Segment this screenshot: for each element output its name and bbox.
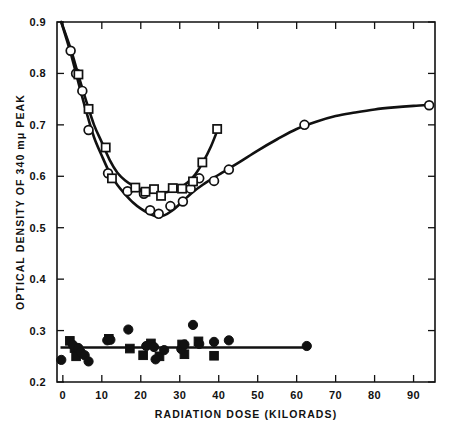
y-axis-title: OPTICAL DENSITY OF 340 mμ PEAK: [14, 94, 26, 310]
data-point-open-square: [189, 177, 197, 185]
data-point-filled-circle: [57, 355, 66, 364]
data-point-filled-circle: [224, 336, 233, 345]
data-point-open-circle: [84, 126, 93, 135]
y-tick-label: 0.7: [30, 119, 47, 131]
data-point-filled-circle: [180, 340, 189, 349]
y-tick-label: 0.8: [30, 67, 47, 79]
data-point-filled-circle: [124, 325, 133, 334]
x-tick-label: 40: [212, 389, 225, 401]
data-point-open-circle: [224, 165, 233, 174]
data-point-open-circle: [66, 46, 75, 55]
data-point-open-circle: [425, 101, 434, 110]
data-point-open-circle: [78, 87, 87, 96]
y-tick-label: 0.2: [30, 376, 47, 388]
x-tick-label: 20: [134, 389, 147, 401]
data-point-open-square: [169, 184, 177, 192]
data-point-open-square: [84, 105, 92, 113]
data-point-open-square: [74, 70, 82, 78]
data-point-filled-circle: [151, 355, 160, 364]
data-point-open-circle: [178, 197, 187, 206]
data-point-filled-circle: [149, 342, 158, 351]
chart-plot-area: 0102030405060708090 0.20.30.40.50.60.70.…: [0, 0, 455, 432]
data-point-filled-circle: [160, 346, 169, 355]
data-point-filled-circle: [84, 357, 93, 366]
y-tick-label: 0.6: [30, 170, 47, 182]
data-point-open-square: [157, 192, 165, 200]
data-point-open-square: [141, 188, 149, 196]
x-tick-label: 30: [173, 389, 186, 401]
y-tick-label: 0.4: [30, 273, 47, 285]
x-tick-label: 50: [251, 389, 264, 401]
x-tick-label: 80: [368, 389, 381, 401]
x-tick-label: 70: [329, 389, 342, 401]
data-point-open-square: [102, 143, 110, 151]
data-point-filled-circle: [188, 320, 197, 329]
data-point-open-circle: [146, 206, 155, 215]
data-point-open-square: [131, 184, 139, 192]
data-point-open-square: [178, 185, 186, 193]
data-point-filled-circle: [195, 339, 204, 348]
data-point-open-square: [198, 158, 206, 166]
data-point-open-square: [108, 174, 116, 182]
data-point-filled-square: [210, 351, 219, 360]
x-tick-label: 60: [290, 389, 303, 401]
data-point-open-circle: [166, 202, 175, 211]
data-point-filled-square: [126, 344, 135, 353]
x-tick-label: 0: [60, 389, 67, 401]
chart-figure: 0102030405060708090 0.20.30.40.50.60.70.…: [0, 0, 455, 432]
data-point-open-circle: [210, 177, 219, 186]
data-point-open-square: [213, 125, 221, 133]
y-tick-label: 0.9: [30, 16, 47, 28]
data-point-filled-circle: [209, 337, 218, 346]
y-tick-label: 0.3: [30, 325, 47, 337]
data-point-filled-circle: [106, 335, 115, 344]
data-point-filled-square: [139, 351, 148, 360]
x-tick-label: 10: [95, 389, 108, 401]
data-point-open-circle: [154, 209, 163, 218]
y-tick-label: 0.5: [30, 222, 47, 234]
x-tick-label: 90: [407, 389, 420, 401]
chart-background: [0, 0, 455, 432]
data-point-filled-circle: [302, 341, 311, 350]
data-point-open-circle: [300, 120, 309, 129]
x-axis-title: RADIATION DOSE (KILORADS): [155, 408, 337, 420]
